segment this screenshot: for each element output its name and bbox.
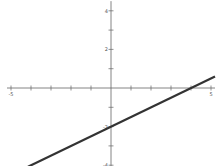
y-tick-label: 2 <box>105 46 108 52</box>
x-tick-label: -5 <box>9 91 14 97</box>
y-tick-label: 4 <box>105 8 108 14</box>
line-series <box>28 76 215 166</box>
line-chart: -5542-2-4 <box>0 0 220 166</box>
x-tick-label: 5 <box>209 91 212 97</box>
tick-labels: -5542-2-4 <box>9 8 213 166</box>
data-series <box>28 76 215 166</box>
axes <box>7 1 215 166</box>
y-tick-label: -4 <box>103 162 108 166</box>
